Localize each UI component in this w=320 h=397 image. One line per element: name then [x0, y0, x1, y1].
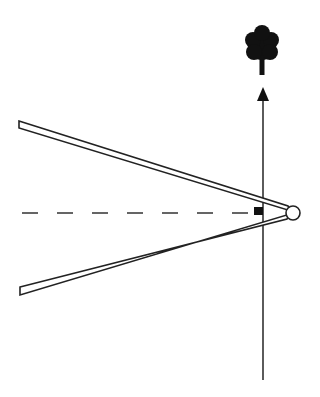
tree-icon — [245, 25, 279, 75]
hinge-circle — [286, 206, 300, 220]
arrow-up-icon — [257, 87, 269, 101]
right-angle-square — [254, 207, 263, 215]
vertical-arrow-line — [257, 87, 269, 380]
diagram-canvas — [0, 0, 320, 397]
lower-mirror-bar — [20, 214, 290, 295]
upper-mirror-bar — [19, 121, 291, 211]
diagram-svg — [0, 0, 320, 397]
